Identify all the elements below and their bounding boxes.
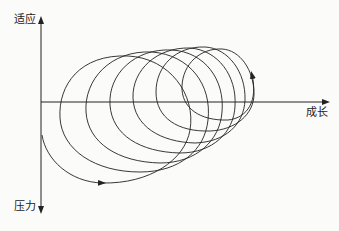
spiral-path: [42, 47, 254, 183]
spiral-diagram: [0, 0, 339, 231]
